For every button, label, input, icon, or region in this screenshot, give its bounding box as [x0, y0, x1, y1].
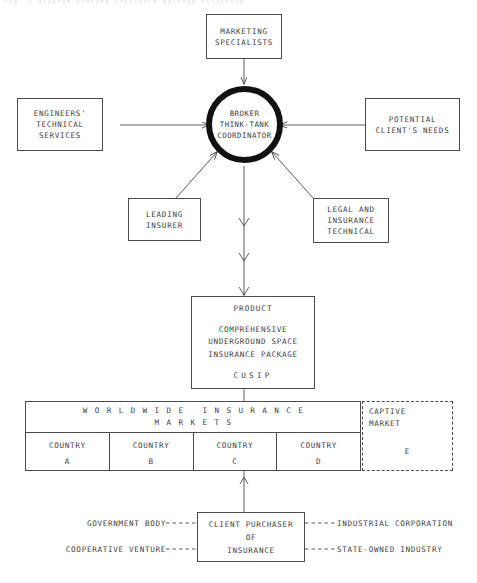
worldwide-markets-block: WORLDWIDE INSURANCE MARKETS COUNTRY A CO… [25, 401, 361, 471]
country-columns-row: COUNTRY A COUNTRY B COUNTRY C COUNTRY D [26, 433, 360, 470]
markets-header-line-2: MARKETS [148, 417, 239, 429]
country-code-c: C [232, 454, 237, 470]
country-label-a: COUNTRY [49, 438, 86, 454]
client-line-3: INSURANCE [227, 544, 274, 557]
broker-line-2: THINK-TANK [220, 119, 270, 130]
node-legal-insurance-technical[interactable]: LEGAL AND INSURANCE TECHNICAL [313, 198, 389, 243]
client-line-1: CLIENT PURCHASER [209, 518, 293, 531]
country-label-d: COUNTRY [300, 438, 337, 454]
potential-line-1: POTENTIAL [389, 114, 436, 125]
captive-market-cell[interactable]: CAPTIVE MARKET E [362, 401, 453, 471]
product-desc-3: INSURANCE PACKAGE [208, 349, 298, 362]
label-cooperative-venture: COOPERATIVE VENTURE [36, 544, 166, 555]
node-potential-clients-needs[interactable]: POTENTIAL CLIENT'S NEEDS [365, 98, 460, 151]
worldwide-insurance-markets-table: WORLDWIDE INSURANCE MARKETS COUNTRY A CO… [25, 401, 453, 471]
country-code-a: A [65, 454, 70, 470]
captive-code: E [369, 446, 446, 458]
node-client-purchaser-of-insurance[interactable]: CLIENT PURCHASER OF INSURANCE [197, 512, 305, 562]
broker-line-1: BROKER [230, 108, 260, 119]
product-acronym: CUSIP [234, 370, 273, 383]
product-title: PRODUCT [233, 303, 272, 316]
engineers-line-1: ENGINEERS' [34, 108, 87, 119]
legal-line-2: INSURANCE [327, 215, 374, 226]
engineers-line-2: TECHNICAL [36, 119, 83, 130]
node-broker-think-tank-coordinator[interactable]: BROKER THINK-TANK COORDINATOR [206, 86, 283, 163]
marketing-line-2: SPECIALISTS [215, 37, 273, 48]
link-legal-to-broker [272, 152, 313, 198]
client-line-2: OF [246, 531, 257, 544]
captive-line-2: MARKET [369, 419, 401, 428]
label-government-body: GOVERNMENT BODY [56, 518, 166, 529]
country-column-a[interactable]: COUNTRY A [26, 433, 110, 470]
potential-line-2: CLIENT'S NEEDS [376, 125, 450, 136]
country-column-d[interactable]: COUNTRY D [277, 433, 360, 470]
country-column-b[interactable]: COUNTRY B [110, 433, 194, 470]
product-desc-1: COMPREHENSIVE [219, 324, 288, 337]
captive-market-labels: CAPTIVE MARKET [369, 406, 446, 429]
markets-table-header: WORLDWIDE INSURANCE MARKETS [26, 402, 360, 433]
product-desc-2: UNDERGROUND SPACE [208, 336, 298, 349]
country-code-b: B [148, 454, 153, 470]
broker-line-3: COORDINATOR [217, 130, 271, 141]
link-leading-to-broker [176, 152, 217, 198]
label-state-owned-industry: STATE-OWNED INDUSTRY [337, 544, 442, 555]
legal-line-3: TECHNICAL [327, 226, 374, 237]
markets-header-line-1: WORLDWIDE INSURANCE [76, 405, 310, 417]
label-industrial-corporation: INDUSTRIAL CORPORATION [337, 518, 453, 529]
marketing-line-1: MARKETING [220, 26, 267, 37]
country-label-c: COUNTRY [216, 438, 253, 454]
country-code-d: D [316, 454, 321, 470]
leading-line-1: LEADING [146, 209, 183, 220]
captive-line-1: CAPTIVE [369, 407, 406, 416]
engineers-line-3: SERVICES [39, 130, 81, 141]
node-engineers-technical-services[interactable]: ENGINEERS' TECHNICAL SERVICES [17, 98, 103, 151]
diagram-canvas: Fig. 1 Diagram showing insurance package… [0, 0, 477, 583]
country-column-c[interactable]: COUNTRY C [194, 433, 278, 470]
country-label-b: COUNTRY [133, 438, 170, 454]
legal-line-1: LEGAL AND [327, 204, 374, 215]
node-marketing-specialists[interactable]: MARKETING SPECIALISTS [206, 14, 282, 59]
leading-line-2: INSURER [146, 220, 183, 231]
node-product[interactable]: PRODUCT COMPREHENSIVE UNDERGROUND SPACE … [191, 296, 315, 389]
node-leading-insurer[interactable]: LEADING INSURER [128, 198, 201, 241]
